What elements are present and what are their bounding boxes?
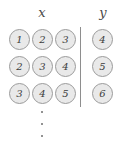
column-header-x: x (35, 6, 49, 20)
vertical-ellipsis-icon (38, 111, 46, 137)
column-divider (80, 27, 81, 107)
y-value-token: 4 (92, 29, 113, 50)
y-value-token: 6 (92, 83, 113, 104)
x-value-token: 3 (9, 83, 30, 104)
y-value-token: 5 (92, 56, 113, 77)
x-value-token: 3 (32, 56, 53, 77)
x-value-token: 4 (32, 83, 53, 104)
ellipsis-dot (41, 123, 43, 125)
column-header-y: y (96, 6, 110, 20)
x-value-token: 3 (55, 29, 76, 50)
x-value-token: 5 (55, 83, 76, 104)
ellipsis-dot (41, 135, 43, 137)
x-value-token: 2 (32, 29, 53, 50)
ellipsis-dot (41, 111, 43, 113)
x-value-token: 1 (9, 29, 30, 50)
dataset-diagram: x y 1 2 3 4 2 3 4 5 3 4 5 6 (0, 0, 119, 142)
x-value-token: 4 (55, 56, 76, 77)
x-value-token: 2 (9, 56, 30, 77)
